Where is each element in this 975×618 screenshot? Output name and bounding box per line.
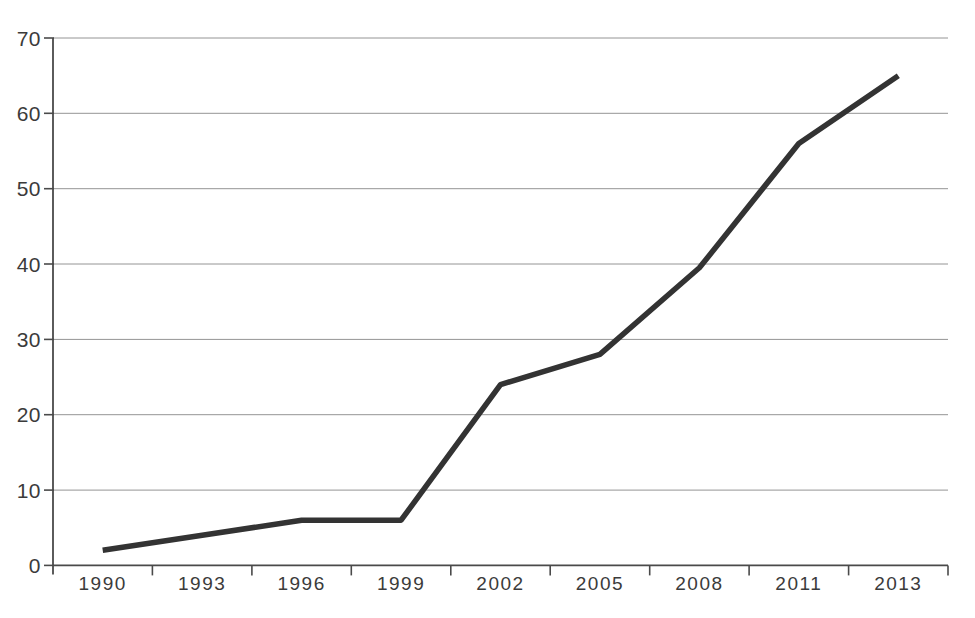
x-axis-label: 2005 xyxy=(576,573,624,594)
y-axis-label: 0 xyxy=(29,554,41,577)
x-axis-label: 1996 xyxy=(277,573,325,594)
x-axis-label: 2013 xyxy=(874,573,922,594)
y-axis-label: 20 xyxy=(17,403,41,426)
y-axis-label: 70 xyxy=(17,27,41,50)
x-axis-label: 2002 xyxy=(476,573,524,594)
x-axis-label: 1990 xyxy=(79,573,127,594)
x-axis-label: 2011 xyxy=(775,573,822,594)
line-chart-figure: 0102030405060701990199319961999200220052… xyxy=(0,0,975,618)
gridlines-group xyxy=(53,38,948,490)
y-axis-label: 50 xyxy=(17,177,41,200)
y-axis-label: 30 xyxy=(17,328,41,351)
y-axis-label: 60 xyxy=(17,102,41,125)
x-axis-label: 1999 xyxy=(377,573,425,594)
y-axis-group: 010203040506070 xyxy=(17,27,54,577)
chart-svg: 0102030405060701990199319961999200220052… xyxy=(0,0,975,618)
y-axis-label: 10 xyxy=(17,479,41,502)
data-line xyxy=(103,76,899,551)
series-group xyxy=(103,76,899,551)
x-axis-label: 1993 xyxy=(178,573,226,594)
x-axis-label: 2008 xyxy=(675,573,723,594)
x-axis-group: 199019931996199920022005200820112013 xyxy=(53,565,948,594)
y-axis-label: 40 xyxy=(17,253,41,276)
